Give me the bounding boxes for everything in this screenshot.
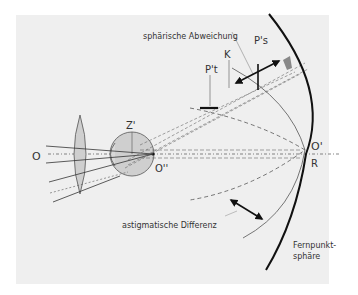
label-far-point-sphere-2: sphäre (293, 252, 320, 261)
label-far-point-sphere-1: Fernpunkt- (293, 241, 336, 250)
astigmatic-leader (225, 211, 237, 216)
spectacle-lens (74, 115, 86, 194)
astigmatic-difference-arrow (231, 200, 262, 219)
label-spherical-aberration: sphärische Abweichung (143, 32, 238, 41)
label-object-point: O (32, 150, 41, 163)
fernpunktsphaere-arc (266, 14, 313, 270)
ray-bundle-1 (128, 63, 305, 160)
oblique-ray-chief (50, 172, 128, 193)
ray-bundle-2 (128, 69, 308, 165)
label-fovea: O'' (155, 163, 168, 174)
label-ps: P's (254, 35, 268, 46)
optics-diagram: O Z' O'' O' R P't P's K sphärische Abwei… (0, 0, 358, 295)
label-k: K (224, 49, 231, 60)
label-r: R (311, 158, 318, 169)
label-far-point-image: O' (311, 140, 323, 153)
oblique-ray-2 (53, 176, 120, 202)
label-pt: P't (205, 64, 218, 75)
label-astigmatic-difference: astigmatische Differenz (122, 221, 217, 230)
sagittal-image-shell (232, 68, 305, 238)
blur-wedge (283, 56, 292, 70)
label-z: Z' (126, 120, 136, 131)
tangential-image-shell (190, 108, 305, 200)
